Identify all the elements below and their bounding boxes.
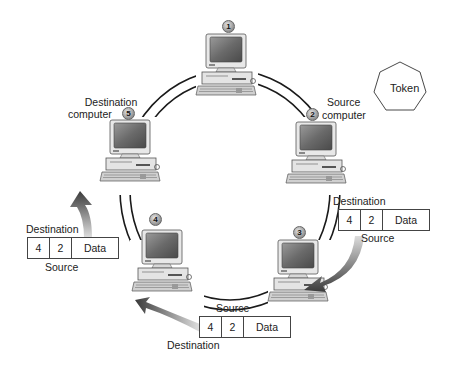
packet-left: 4 2 Data xyxy=(27,237,119,259)
computer-4 xyxy=(130,230,204,310)
packet-left-dest-cell: 4 xyxy=(28,238,50,258)
computer-3 xyxy=(268,240,332,310)
packet-bottom: 4 2 Data xyxy=(199,316,291,338)
computer-5 xyxy=(100,117,164,195)
source-computer-label-line1: Source xyxy=(327,96,360,108)
token-ring-diagram: Token 1 2 3 4 5 Destination computer Sou… xyxy=(0,0,455,366)
packet-left-source-label: Source xyxy=(45,261,78,273)
packet-right-dest-cell: 4 xyxy=(339,210,361,230)
source-computer-label-line2: computer xyxy=(322,109,366,121)
destination-computer-label-line1: Destination xyxy=(66,96,156,108)
packet-right-data-cell: Data xyxy=(383,210,429,230)
token-label: Token xyxy=(390,82,419,94)
computer-1 xyxy=(196,34,258,95)
packet-bottom-source-label: Source xyxy=(216,302,249,314)
badge-1: 1 xyxy=(222,20,235,33)
packet-bottom-src-cell: 2 xyxy=(222,317,244,337)
packet-right-src-cell: 2 xyxy=(361,210,383,230)
destination-computer-label-line2: computer xyxy=(68,108,112,120)
badge-3: 3 xyxy=(293,226,306,239)
packet-left-data-cell: Data xyxy=(72,238,118,258)
packet-bottom-data-cell: Data xyxy=(244,317,290,337)
computer-2 xyxy=(282,117,346,195)
badge-4: 4 xyxy=(149,213,162,226)
packet-right-source-label: Source xyxy=(361,232,394,244)
packet-left-src-cell: 2 xyxy=(50,238,72,258)
packet-bottom-dest-cell: 4 xyxy=(200,317,222,337)
packet-left-destination-label: Destination xyxy=(26,223,79,235)
badge-5: 5 xyxy=(122,107,135,120)
packet-bottom-destination-label: Destination xyxy=(167,339,220,351)
badge-2: 2 xyxy=(306,108,319,121)
packet-right-destination-label: Destination xyxy=(333,195,386,207)
packet-right: 4 2 Data xyxy=(338,209,430,231)
